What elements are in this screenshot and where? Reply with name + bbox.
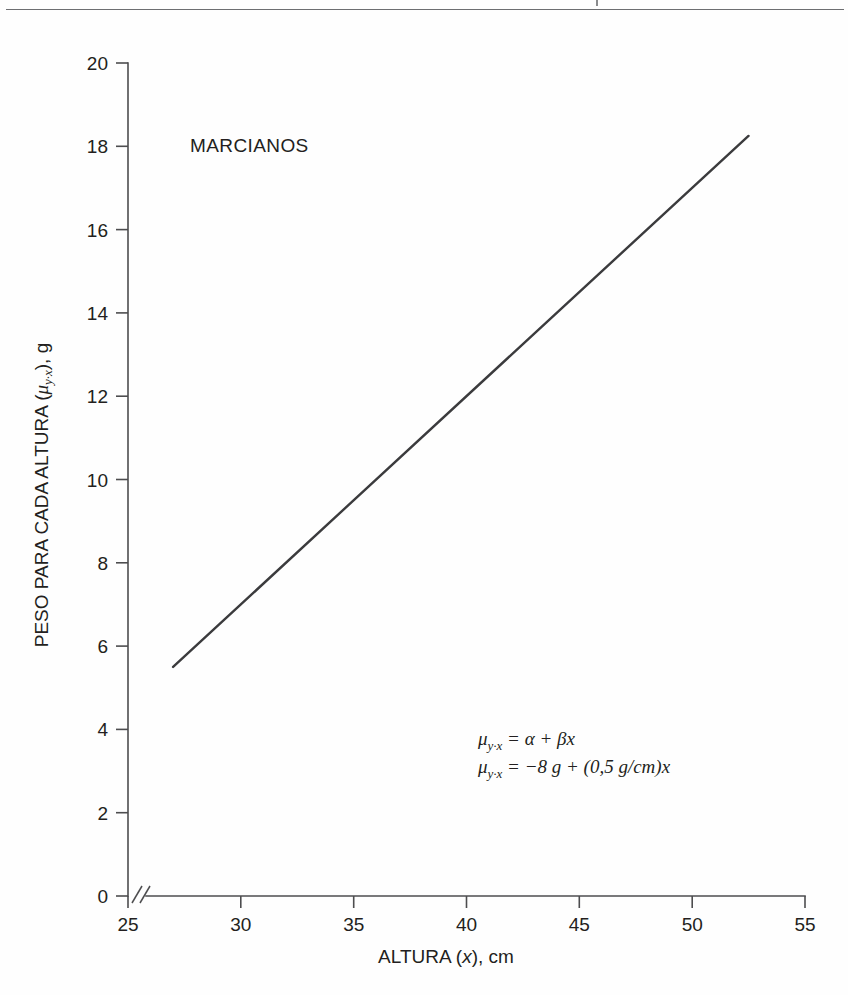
y-tick-label: 14 (87, 303, 109, 324)
y-axis-title-suffix: ), g (31, 343, 52, 370)
y-tick-label: 4 (97, 719, 108, 740)
x-tick-label: 55 (794, 914, 815, 935)
page-canvas: 0 2 4 6 8 10 12 14 16 18 20 25 30 35 40 (0, 0, 848, 995)
y-axis-title-prefix: PESO PARA CADA ALTURA ( (31, 394, 52, 647)
plot-title: MARCIANOS (190, 135, 309, 156)
y-axis-title-subscript: y·x (40, 370, 55, 387)
y-tick-label: 16 (87, 220, 108, 241)
regression-line (173, 136, 748, 667)
equation2-mu: μ (477, 756, 488, 777)
y-tick-label: 20 (87, 53, 108, 74)
x-tick-label: 40 (456, 914, 477, 935)
equation-line-2: μy·x = −8 g + (0,5 g/cm)x (477, 756, 671, 781)
y-axis-title: PESO PARA CADA ALTURA (μy·x), g (31, 343, 55, 648)
equation2-body-c: )x (654, 756, 670, 778)
equation1-body: = α + βx (502, 728, 575, 749)
equation2-body-a: = −8 (502, 756, 551, 777)
y-tick-label: 2 (97, 803, 108, 824)
y-axis-tick-labels: 0 2 4 6 8 10 12 14 16 18 20 (87, 53, 109, 907)
x-tick-label: 35 (343, 914, 364, 935)
equation-line-1: μy·x = α + βx (477, 728, 575, 753)
x-tick-label: 45 (569, 914, 590, 935)
equation2-body-b: + (0,5 (561, 756, 618, 778)
equation2-unit-g: g (552, 756, 562, 777)
y-axis-ticks (116, 63, 128, 896)
y-tick-label: 18 (87, 136, 108, 157)
y-axis-title-mu: μ (31, 385, 52, 396)
x-axis-ticks (128, 896, 805, 908)
equation1-subscript: y·x (486, 738, 503, 753)
equation2-unit-gcm: g/cm (618, 756, 655, 777)
x-axis-tick-labels: 25 30 35 40 45 50 55 (117, 914, 815, 935)
x-tick-label: 30 (230, 914, 251, 935)
y-tick-label: 10 (87, 470, 108, 491)
y-tick-label: 6 (97, 636, 108, 657)
equation2-subscript: y·x (486, 766, 503, 781)
x-tick-label: 50 (682, 914, 703, 935)
y-tick-label: 0 (97, 886, 108, 907)
axis-break-icon (132, 886, 150, 903)
x-tick-label: 25 (117, 914, 138, 935)
x-axis-title-prefix: ALTURA ( (378, 946, 463, 967)
y-tick-label: 12 (87, 386, 108, 407)
x-axis-title-suffix: ), cm (472, 946, 514, 967)
regression-chart: 0 2 4 6 8 10 12 14 16 18 20 25 30 35 40 (0, 0, 848, 995)
y-tick-label: 8 (97, 553, 108, 574)
x-axis-title: ALTURA (x), cm (378, 946, 514, 967)
equation1-mu: μ (477, 728, 488, 749)
